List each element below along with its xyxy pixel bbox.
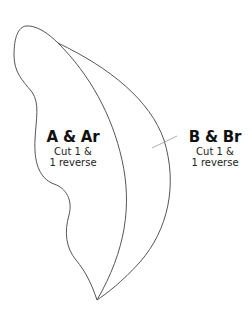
leader-line-b xyxy=(152,136,177,148)
piece-a-title: A & Ar xyxy=(40,129,106,146)
seam-a-b xyxy=(58,43,126,300)
piece-a-label: A & Ar Cut 1 & 1 reverse xyxy=(40,129,106,168)
piece-b-cut-line1: Cut 1 & xyxy=(178,146,252,157)
piece-a-cut-line2: 1 reverse xyxy=(40,157,106,168)
piece-b-title: B & Br xyxy=(178,129,252,146)
piece-b-cut-line2: 1 reverse xyxy=(178,157,252,168)
piece-b-right-edge xyxy=(58,43,170,300)
piece-b-label: B & Br Cut 1 & 1 reverse xyxy=(178,129,252,168)
piece-a-cut-line1: Cut 1 & xyxy=(40,146,106,157)
